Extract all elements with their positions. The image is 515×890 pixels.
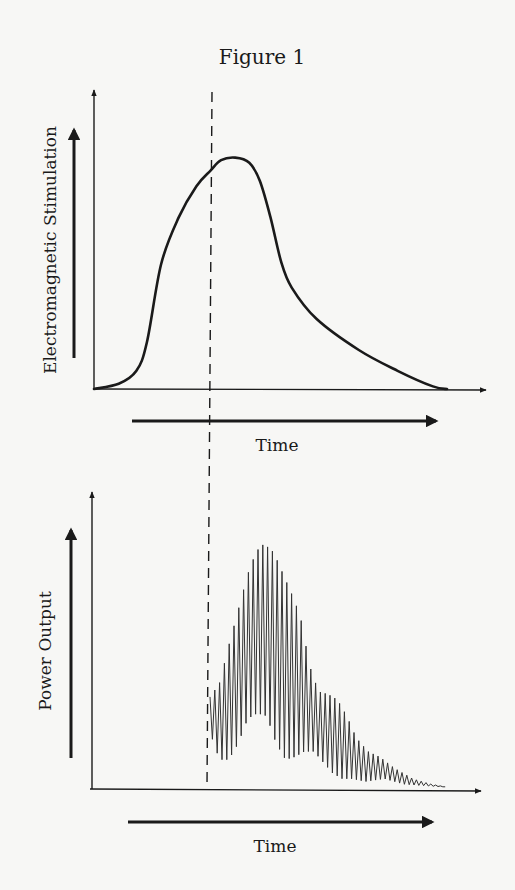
power-x-axis — [90, 789, 481, 791]
power-oscillation-waveform — [210, 545, 445, 787]
stimulation-x-axis — [94, 389, 486, 390]
stimulation-ylabel: Electromagnetic Stimulation — [40, 126, 60, 374]
figure-canvas: Figure 1 Time Electromagnetic Stimulatio… — [0, 0, 515, 890]
stimulation-chart: Time Electromagnetic Stimulation — [40, 90, 486, 455]
onset-dashed-line — [207, 92, 212, 786]
power-chart: Time Power Output — [35, 492, 481, 856]
power-xlabel: Time — [254, 836, 297, 856]
stimulation-curve — [94, 158, 447, 389]
power-ylabel: Power Output — [35, 591, 55, 711]
stimulation-xlabel: Time — [256, 435, 299, 455]
figure-title: Figure 1 — [219, 45, 305, 69]
